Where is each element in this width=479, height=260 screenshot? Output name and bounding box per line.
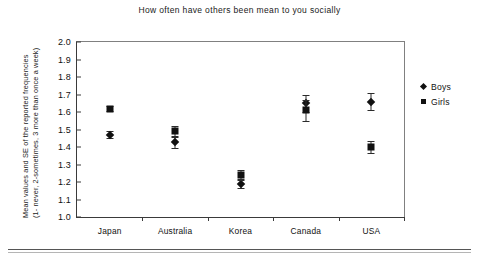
y-axis-tick-label: 1.2 [58, 177, 77, 187]
error-bar-cap-upper [368, 93, 375, 94]
y-axis-label-line-1: Mean values and SE of the reported frequ… [21, 28, 30, 218]
x-axis-tick-mark [208, 217, 209, 221]
legend-label-girls: Girls [429, 97, 450, 107]
error-bar-cap-lower [368, 110, 375, 111]
y-axis-tick-label: 1.0 [58, 212, 77, 222]
y-axis-tick-mark [77, 59, 81, 60]
data-marker-square[interactable] [237, 172, 244, 179]
error-bar-cap-lower [172, 148, 179, 149]
y-axis-tick-mark [77, 164, 81, 165]
diamond-marker-icon [418, 84, 429, 89]
y-axis-tick-mark [77, 129, 81, 130]
data-marker-diamond[interactable] [367, 97, 375, 105]
x-axis-category-label: Korea [229, 226, 252, 236]
y-axis-tick-label: 1.3 [58, 160, 77, 170]
y-axis-tick-label: 1.9 [58, 55, 77, 65]
y-axis-tick-mark [77, 199, 81, 200]
y-axis-tick-label: 1.7 [58, 90, 77, 100]
chart-title: How often have others been mean to you s… [0, 5, 479, 15]
data-marker-square[interactable] [302, 107, 309, 114]
data-marker-square[interactable] [106, 105, 113, 112]
error-bar-cap-lower [237, 180, 244, 181]
y-axis-tick-mark [77, 94, 81, 95]
x-axis-category-label: Japan [98, 226, 122, 236]
legend-label-boys: Boys [429, 82, 451, 92]
footer-divider-secondary [8, 252, 471, 253]
x-axis-tick-mark [142, 217, 143, 221]
plot-area: 2.01.91.81.71.61.51.41.31.21.11.0JapanAu… [76, 41, 405, 218]
y-axis-tick-mark [77, 182, 81, 183]
error-bar-cap-lower [368, 153, 375, 154]
y-axis-tick-label: 2.0 [58, 37, 77, 47]
x-axis-category-label: Australia [158, 226, 192, 236]
y-axis-tick-mark [77, 147, 81, 148]
data-marker-square[interactable] [368, 144, 375, 151]
x-axis-category-label: Canada [291, 226, 322, 236]
x-axis-tick-mark [273, 217, 274, 221]
data-marker-diamond[interactable] [171, 138, 179, 146]
chart-legend: Boys Girls [418, 79, 476, 109]
x-axis-category-label: USA [362, 226, 380, 236]
error-bar-cap-lower [302, 121, 309, 122]
y-axis-tick-mark [77, 42, 81, 43]
error-bar-cap-upper [302, 100, 309, 101]
error-bar-cap-lower [172, 137, 179, 138]
x-axis-tick-mark [404, 217, 405, 221]
data-marker-square[interactable] [172, 128, 179, 135]
error-bar-cap-upper [368, 141, 375, 142]
y-axis-tick-label: 1.4 [58, 142, 77, 152]
y-axis-tick-mark [77, 112, 81, 113]
y-axis-label: Mean values and SE of the reported frequ… [18, 28, 44, 218]
y-axis-tick-label: 1.8 [58, 72, 77, 82]
legend-item-boys[interactable]: Boys [418, 79, 476, 94]
y-axis-tick-mark [77, 217, 81, 218]
y-axis-tick-label: 1.5 [58, 125, 77, 135]
y-axis-tick-label: 1.1 [58, 195, 77, 205]
y-axis-label-line-2: (1- never, 2-sometimes, 3 more than once… [31, 28, 40, 218]
y-axis-tick-mark [77, 77, 81, 78]
error-bar-cap-upper [302, 95, 309, 96]
footer-divider [8, 249, 471, 250]
legend-item-girls[interactable]: Girls [418, 94, 476, 109]
x-axis-tick-mark [339, 217, 340, 221]
chart-figure: How often have others been mean to you s… [0, 0, 479, 260]
y-axis-tick-label: 1.6 [58, 107, 77, 117]
square-marker-icon [418, 99, 429, 104]
